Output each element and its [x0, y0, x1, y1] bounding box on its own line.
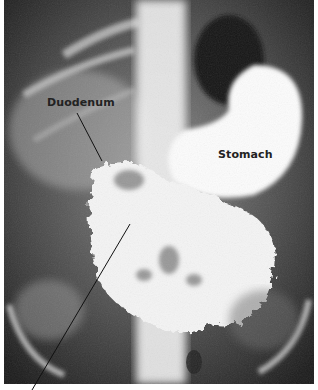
- stomach-label: Stomach: [218, 148, 273, 161]
- duodenum-leader-line: [77, 113, 102, 161]
- duodenum-label: Duodenum: [47, 96, 115, 109]
- small-intestine-leader-line: [32, 224, 130, 390]
- leader-lines: [0, 0, 318, 390]
